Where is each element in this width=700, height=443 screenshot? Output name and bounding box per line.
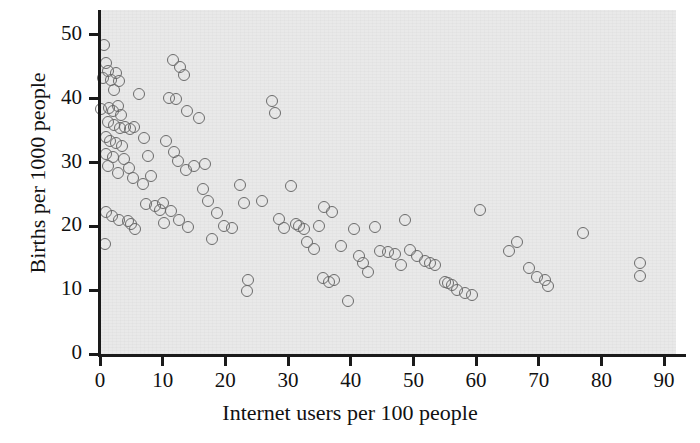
- data-point: [242, 274, 254, 286]
- x-tick-label: 50: [383, 368, 443, 393]
- data-point: [178, 69, 190, 81]
- data-point: [182, 221, 194, 233]
- data-point: [335, 240, 347, 252]
- data-point: [269, 107, 281, 119]
- plot-background-texture: [100, 10, 676, 354]
- data-point: [193, 112, 205, 124]
- data-point: [326, 206, 338, 218]
- x-tick-mark: [349, 357, 352, 366]
- x-tick-label: 70: [509, 368, 569, 393]
- plot-area: [100, 10, 676, 354]
- data-point: [511, 236, 523, 248]
- y-tick-mark: [89, 353, 98, 356]
- data-point: [577, 227, 589, 239]
- data-point: [399, 214, 411, 226]
- data-point: [389, 248, 401, 260]
- data-point: [181, 105, 193, 117]
- data-point: [634, 257, 646, 269]
- y-axis-label-container: Births per 1000 people: [25, 0, 51, 353]
- data-point: [328, 274, 340, 286]
- y-tick-mark: [89, 97, 98, 100]
- data-point: [369, 221, 381, 233]
- data-point: [298, 223, 310, 235]
- data-point: [241, 285, 253, 297]
- x-tick-label: 80: [571, 368, 631, 393]
- y-tick-mark: [89, 225, 98, 228]
- data-point: [206, 233, 218, 245]
- data-point: [202, 195, 214, 207]
- data-point: [112, 167, 124, 179]
- x-tick-label: 60: [446, 368, 506, 393]
- data-point: [197, 183, 209, 195]
- x-axis-label: Internet users per 100 people: [0, 400, 700, 426]
- data-point: [211, 207, 223, 219]
- data-point: [542, 280, 554, 292]
- x-tick-mark: [287, 357, 290, 366]
- data-point: [188, 160, 200, 172]
- data-point: [313, 220, 325, 232]
- x-tick-label: 40: [321, 368, 381, 393]
- data-point: [285, 180, 297, 192]
- x-tick-label: 10: [133, 368, 193, 393]
- data-point: [170, 93, 182, 105]
- y-axis-label: Births per 1000 people: [25, 72, 50, 273]
- data-point: [138, 132, 150, 144]
- x-tick-mark: [537, 357, 540, 366]
- data-point: [348, 223, 360, 235]
- data-point: [128, 121, 140, 133]
- data-point: [466, 289, 478, 301]
- data-point: [129, 223, 141, 235]
- x-tick-label: 20: [195, 368, 255, 393]
- scatter-plot-figure: 0102030405060708090 01020304050 Internet…: [0, 0, 700, 443]
- data-point: [116, 140, 128, 152]
- data-point: [278, 222, 290, 234]
- data-point: [142, 150, 154, 162]
- x-tick-mark: [600, 357, 603, 366]
- data-point: [145, 170, 157, 182]
- x-tick-mark: [663, 357, 666, 366]
- y-tick-mark: [89, 33, 98, 36]
- data-point: [429, 259, 441, 271]
- data-point: [256, 195, 268, 207]
- data-point: [308, 243, 320, 255]
- data-point: [108, 84, 120, 96]
- data-point: [395, 259, 407, 271]
- x-tick-mark: [224, 357, 227, 366]
- data-point: [226, 222, 238, 234]
- x-tick-label: 30: [258, 368, 318, 393]
- x-tick-mark: [412, 357, 415, 366]
- data-point: [133, 88, 145, 100]
- x-axis-line: [98, 354, 686, 357]
- y-tick-mark: [89, 289, 98, 292]
- x-tick-mark: [99, 357, 102, 366]
- data-point: [474, 204, 486, 216]
- data-point: [342, 295, 354, 307]
- data-point: [238, 197, 250, 209]
- x-tick-mark: [161, 357, 164, 366]
- data-point: [234, 179, 246, 191]
- data-point: [158, 217, 170, 229]
- data-point: [362, 266, 374, 278]
- x-tick-label: 90: [634, 368, 694, 393]
- y-axis-line: [98, 10, 101, 357]
- y-tick-mark: [89, 161, 98, 164]
- data-point: [199, 158, 211, 170]
- x-tick-label: 0: [70, 368, 130, 393]
- x-tick-mark: [475, 357, 478, 366]
- data-point: [266, 95, 278, 107]
- data-point: [634, 270, 646, 282]
